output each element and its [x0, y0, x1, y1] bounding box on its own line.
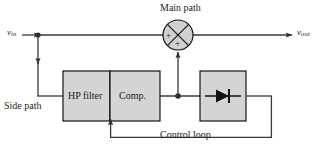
- input-signal-label: vin: [7, 28, 16, 38]
- control-loop-label: Control loop: [160, 130, 211, 140]
- compressor-label: Comp.: [119, 91, 146, 101]
- side-path-label: Side path: [4, 101, 42, 111]
- side-path-wire: [37, 35, 63, 96]
- main-path-label: Main path: [160, 3, 201, 13]
- output-signal-label: vout: [297, 28, 310, 38]
- input-signal-subscript: in: [11, 30, 16, 37]
- block-diagram-figure: Main path vin vout HP filter Comp. Side …: [0, 0, 320, 154]
- output-signal-subscript: out: [301, 30, 310, 37]
- hp-filter-label: HP filter: [68, 91, 102, 101]
- summing-junction-plus-bottom: +: [175, 39, 180, 48]
- summing-junction-plus-left: +: [166, 31, 171, 40]
